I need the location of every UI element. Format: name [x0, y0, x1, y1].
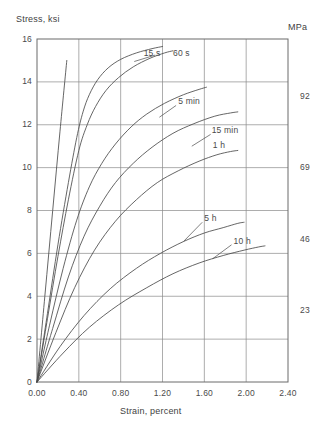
y-tick-label: 2 — [8, 335, 32, 344]
x-tick-label: 2.40 — [277, 389, 299, 398]
y-tick-label: 16 — [8, 35, 32, 44]
curve-label-10-h: 10 h — [234, 236, 251, 246]
chart-plot-area — [0, 0, 325, 438]
curve-label-15-s: 15 s — [144, 48, 161, 58]
curve-label-5-min: 5 min — [178, 96, 200, 106]
x-tick-label: 0.00 — [26, 389, 48, 398]
curve-label-1-h: 1 h — [213, 140, 225, 150]
gridlines — [37, 39, 288, 382]
y2-tick-label: 69 — [300, 163, 310, 172]
x-tick-label: 1.60 — [193, 389, 215, 398]
y-tick-label: 0 — [8, 378, 32, 387]
curve-label-15-min: 15 min — [212, 125, 239, 135]
y-tick-label: 6 — [8, 249, 32, 258]
curve-label-60-s: 60 s — [173, 48, 190, 58]
y2-tick-label: 23 — [300, 306, 310, 315]
x-tick-label: 2.00 — [235, 389, 257, 398]
x-tick-label: 0.40 — [68, 389, 90, 398]
y-tick-label: 12 — [8, 120, 32, 129]
stress-strain-chart: Stress, ksi MPa Strain, percent 02468101… — [0, 0, 325, 438]
y2-tick-label: 46 — [300, 235, 310, 244]
x-tick-label: 1.20 — [152, 389, 174, 398]
y2-tick-label: 92 — [300, 92, 310, 101]
curve-label-5-h: 5 h — [204, 213, 216, 223]
y-tick-label: 4 — [8, 292, 32, 301]
data-curves — [37, 47, 265, 383]
y-tick-label: 14 — [8, 77, 32, 86]
y-tick-label: 8 — [8, 206, 32, 215]
y-tick-label: 10 — [8, 163, 32, 172]
x-tick-label: 0.80 — [110, 389, 132, 398]
